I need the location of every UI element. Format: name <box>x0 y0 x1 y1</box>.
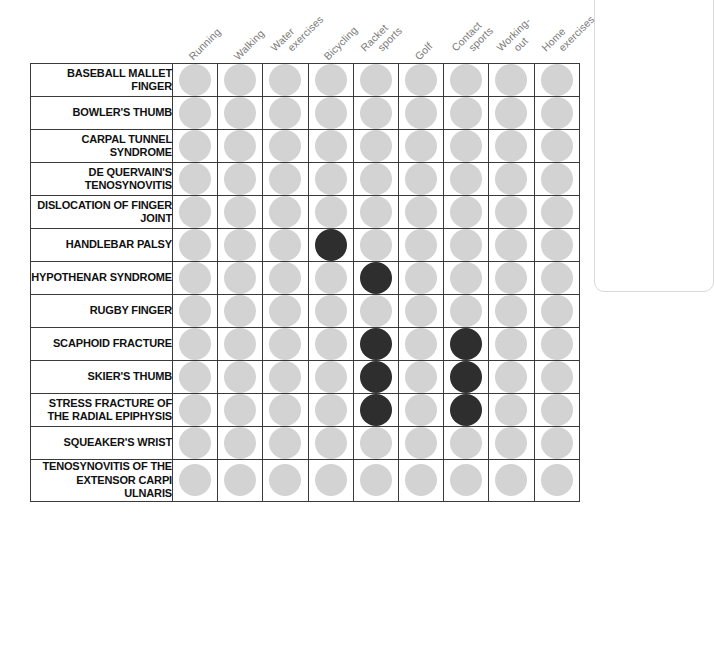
matrix-cell[interactable] <box>218 295 263 328</box>
matrix-cell[interactable] <box>534 394 579 427</box>
matrix-cell[interactable] <box>218 97 263 130</box>
matrix-cell[interactable] <box>173 64 218 97</box>
matrix-cell[interactable] <box>398 229 443 262</box>
matrix-cell[interactable] <box>353 64 398 97</box>
matrix-cell[interactable] <box>444 229 489 262</box>
matrix-cell[interactable] <box>489 130 534 163</box>
matrix-cell[interactable] <box>263 163 308 196</box>
matrix-cell[interactable] <box>173 394 218 427</box>
matrix-cell[interactable] <box>173 295 218 328</box>
matrix-cell[interactable] <box>534 328 579 361</box>
matrix-cell[interactable] <box>263 262 308 295</box>
matrix-cell[interactable] <box>489 394 534 427</box>
matrix-cell[interactable] <box>308 229 353 262</box>
matrix-cell[interactable] <box>263 130 308 163</box>
matrix-cell[interactable] <box>263 394 308 427</box>
matrix-cell[interactable] <box>398 460 443 502</box>
matrix-cell[interactable] <box>263 229 308 262</box>
matrix-cell[interactable] <box>218 196 263 229</box>
matrix-cell[interactable] <box>308 196 353 229</box>
matrix-cell[interactable] <box>444 64 489 97</box>
matrix-cell[interactable] <box>489 460 534 502</box>
matrix-cell[interactable] <box>353 262 398 295</box>
matrix-cell[interactable] <box>444 361 489 394</box>
matrix-cell[interactable] <box>444 196 489 229</box>
matrix-cell[interactable] <box>398 262 443 295</box>
matrix-cell[interactable] <box>308 64 353 97</box>
matrix-cell[interactable] <box>444 328 489 361</box>
matrix-cell[interactable] <box>308 361 353 394</box>
matrix-cell[interactable] <box>263 196 308 229</box>
matrix-cell[interactable] <box>308 460 353 502</box>
matrix-cell[interactable] <box>534 361 579 394</box>
matrix-cell[interactable] <box>218 427 263 460</box>
matrix-cell[interactable] <box>218 394 263 427</box>
matrix-cell[interactable] <box>444 262 489 295</box>
matrix-cell[interactable] <box>173 196 218 229</box>
matrix-cell[interactable] <box>444 130 489 163</box>
matrix-cell[interactable] <box>308 295 353 328</box>
matrix-cell[interactable] <box>263 328 308 361</box>
matrix-cell[interactable] <box>489 163 534 196</box>
matrix-cell[interactable] <box>308 328 353 361</box>
matrix-cell[interactable] <box>444 163 489 196</box>
matrix-cell[interactable] <box>398 328 443 361</box>
matrix-cell[interactable] <box>398 196 443 229</box>
matrix-cell[interactable] <box>263 361 308 394</box>
matrix-cell[interactable] <box>308 163 353 196</box>
matrix-cell[interactable] <box>489 361 534 394</box>
matrix-cell[interactable] <box>534 97 579 130</box>
matrix-cell[interactable] <box>398 97 443 130</box>
matrix-cell[interactable] <box>308 394 353 427</box>
matrix-cell[interactable] <box>173 130 218 163</box>
matrix-cell[interactable] <box>534 460 579 502</box>
matrix-cell[interactable] <box>398 394 443 427</box>
matrix-cell[interactable] <box>263 295 308 328</box>
matrix-cell[interactable] <box>218 163 263 196</box>
matrix-cell[interactable] <box>398 427 443 460</box>
matrix-cell[interactable] <box>489 229 534 262</box>
matrix-cell[interactable] <box>218 460 263 502</box>
matrix-cell[interactable] <box>534 427 579 460</box>
matrix-cell[interactable] <box>218 130 263 163</box>
matrix-cell[interactable] <box>353 460 398 502</box>
matrix-cell[interactable] <box>173 361 218 394</box>
matrix-cell[interactable] <box>489 427 534 460</box>
matrix-cell[interactable] <box>308 427 353 460</box>
matrix-cell[interactable] <box>308 130 353 163</box>
matrix-cell[interactable] <box>489 97 534 130</box>
matrix-cell[interactable] <box>173 460 218 502</box>
matrix-cell[interactable] <box>534 262 579 295</box>
matrix-cell[interactable] <box>398 361 443 394</box>
matrix-cell[interactable] <box>353 229 398 262</box>
matrix-cell[interactable] <box>353 394 398 427</box>
matrix-cell[interactable] <box>398 295 443 328</box>
matrix-cell[interactable] <box>444 97 489 130</box>
matrix-cell[interactable] <box>353 196 398 229</box>
matrix-cell[interactable] <box>353 295 398 328</box>
matrix-cell[interactable] <box>489 328 534 361</box>
matrix-cell[interactable] <box>173 262 218 295</box>
matrix-cell[interactable] <box>534 64 579 97</box>
matrix-cell[interactable] <box>218 328 263 361</box>
matrix-cell[interactable] <box>489 295 534 328</box>
matrix-cell[interactable] <box>173 163 218 196</box>
matrix-cell[interactable] <box>489 262 534 295</box>
matrix-cell[interactable] <box>444 295 489 328</box>
matrix-cell[interactable] <box>353 427 398 460</box>
matrix-cell[interactable] <box>398 64 443 97</box>
matrix-cell[interactable] <box>263 460 308 502</box>
matrix-cell[interactable] <box>489 64 534 97</box>
matrix-cell[interactable] <box>444 394 489 427</box>
matrix-cell[interactable] <box>534 196 579 229</box>
matrix-cell[interactable] <box>534 163 579 196</box>
matrix-cell[interactable] <box>218 229 263 262</box>
matrix-cell[interactable] <box>173 97 218 130</box>
matrix-cell[interactable] <box>353 163 398 196</box>
matrix-cell[interactable] <box>218 64 263 97</box>
matrix-cell[interactable] <box>534 295 579 328</box>
matrix-cell[interactable] <box>173 328 218 361</box>
matrix-cell[interactable] <box>218 262 263 295</box>
matrix-cell[interactable] <box>353 97 398 130</box>
matrix-cell[interactable] <box>444 460 489 502</box>
